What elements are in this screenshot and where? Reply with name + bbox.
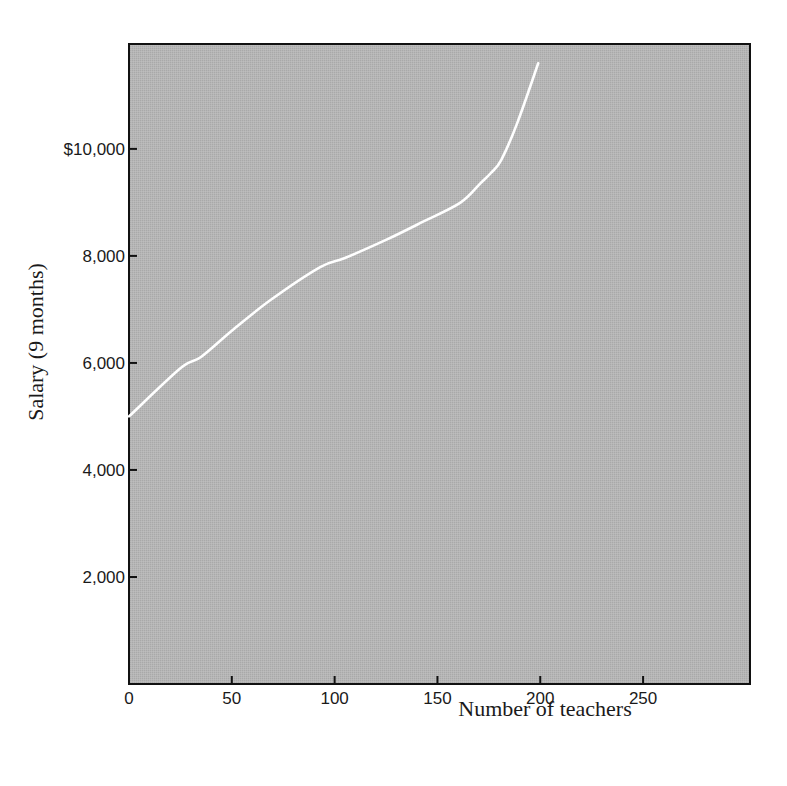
plot-area bbox=[129, 44, 750, 684]
x-tick-label: 100 bbox=[320, 689, 348, 708]
y-tick-label: 8,000 bbox=[82, 247, 125, 266]
y-axis-ticks: 2,0004,0006,0008,000$10,000 bbox=[64, 140, 137, 587]
y-tick-label: 6,000 bbox=[82, 354, 125, 373]
y-tick-label: 2,000 bbox=[82, 568, 125, 587]
x-tick-label: 0 bbox=[124, 689, 133, 708]
x-tick-label: 150 bbox=[423, 689, 451, 708]
x-axis-title: Number of teachers bbox=[458, 696, 631, 721]
y-tick-label: $10,000 bbox=[64, 140, 125, 159]
y-axis-title: Salary (9 months) bbox=[23, 263, 48, 421]
x-tick-label: 250 bbox=[629, 689, 657, 708]
y-tick-label: 4,000 bbox=[82, 461, 125, 480]
x-tick-label: 50 bbox=[222, 689, 241, 708]
chart: 050100150200250 2,0004,0006,0008,000$10,… bbox=[0, 0, 787, 786]
